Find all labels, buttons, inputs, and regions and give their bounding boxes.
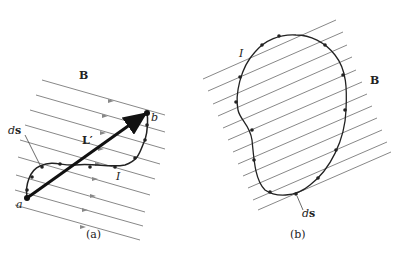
current-label-b: I: [239, 47, 243, 60]
caption-a: (a): [86, 228, 101, 241]
point-b-label: b: [151, 111, 158, 124]
ds-label-a: ds: [8, 124, 21, 137]
point-a-label: a: [16, 198, 23, 211]
ds-label-b: ds: [302, 207, 315, 220]
vector-L-prime-label: L′: [82, 134, 93, 147]
field-label-b: B: [370, 74, 379, 87]
diagram-canvas: [0, 0, 401, 255]
field-label-a: B: [79, 69, 88, 82]
current-label-a: I: [116, 170, 120, 183]
caption-b: (b): [290, 228, 306, 241]
field-lines-b: [203, 20, 391, 210]
